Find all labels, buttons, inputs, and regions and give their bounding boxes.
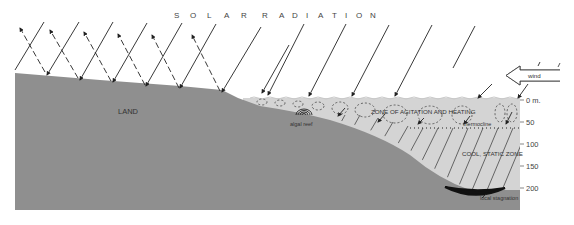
title-letter: A <box>318 11 324 20</box>
cool-static-zone-label: COOL, STATIC ZONE <box>462 150 523 157</box>
local-stagnation-label: local stagnation <box>480 195 518 201</box>
agitation-zone-label: ZONE OF AGITATION AND HEATING <box>371 108 476 115</box>
solar-radiation-diagram: S O L A R R A D I A T I O N LAND algal r… <box>0 0 574 225</box>
title-letter: S <box>174 11 179 20</box>
wind-label: wind <box>527 72 541 79</box>
title-letter: T <box>332 11 337 20</box>
title-letter: R <box>262 11 268 20</box>
title-letter: O <box>356 11 362 20</box>
title-letter: A <box>224 11 230 20</box>
depth-tick-200: 200 <box>526 184 539 193</box>
depth-tick-50: 50 <box>526 118 534 127</box>
title-letter: I <box>345 11 347 20</box>
depth-tick-150: 150 <box>526 162 539 171</box>
thermocline-label: thermocline <box>463 121 491 127</box>
depth-axis <box>520 100 524 188</box>
title-letter: N <box>370 11 376 20</box>
title-letter: D <box>292 11 298 20</box>
title-letter: I <box>306 11 308 20</box>
title-letter: R <box>241 11 247 20</box>
title-solar-radiation: S O L A R R A D I A T I O N <box>174 11 376 20</box>
title-letter: O <box>190 11 196 20</box>
depth-tick-100: 100 <box>526 140 539 149</box>
algal-reef-label: algal reef <box>290 121 313 127</box>
title-letter: L <box>207 11 212 20</box>
title-letter: A <box>279 11 285 20</box>
depth-tick-0: 0 m. <box>526 96 541 105</box>
land-label: LAND <box>118 107 139 116</box>
